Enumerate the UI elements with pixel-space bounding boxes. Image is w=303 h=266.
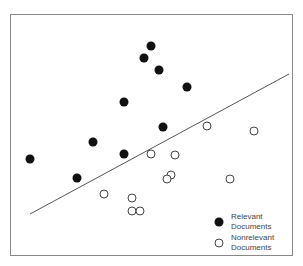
relevant-document-point: [73, 174, 82, 183]
nonrelevant-document-point: [147, 150, 155, 158]
nonrelevant-document-point: [250, 127, 258, 135]
relevant-document-point: [159, 123, 168, 132]
nonrelevant-document-point: [100, 190, 108, 198]
legend-nonrelevant-label-1: Nonrelevant: [231, 233, 275, 242]
nonrelevant-document-point: [171, 151, 179, 159]
nonrelevant-document-point: [163, 175, 171, 183]
relevant-document-point: [140, 54, 149, 63]
legend-nonrelevant-marker: [215, 239, 223, 247]
nonrelevant-document-point: [226, 175, 234, 183]
relevant-document-point: [26, 155, 35, 164]
legend-relevant-label-2: Documents: [231, 222, 271, 231]
relevant-document-point: [120, 150, 129, 159]
nonrelevant-document-point: [128, 207, 136, 215]
relevant-document-point: [89, 138, 98, 147]
nonrelevant-document-point: [136, 207, 144, 215]
relevant-document-point: [183, 83, 192, 92]
legend-relevant-marker: [215, 218, 224, 227]
relevant-document-point: [120, 98, 129, 107]
relevant-document-point: [155, 66, 164, 75]
legend-relevant-label-1: Relevant: [231, 212, 263, 221]
legend-nonrelevant-label-2: Documents: [231, 243, 271, 252]
nonrelevant-document-point: [128, 194, 136, 202]
relevant-document-point: [147, 42, 156, 51]
scatter-diagram: Relevant Documents Nonrelevant Documents: [0, 0, 303, 266]
nonrelevant-document-point: [203, 122, 211, 130]
